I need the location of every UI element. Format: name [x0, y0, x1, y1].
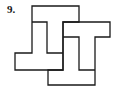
right-stem-inner-edge — [63, 37, 95, 70]
interlocking-shapes-diagram — [0, 0, 122, 91]
left-stem-inner-edge — [32, 22, 63, 53]
